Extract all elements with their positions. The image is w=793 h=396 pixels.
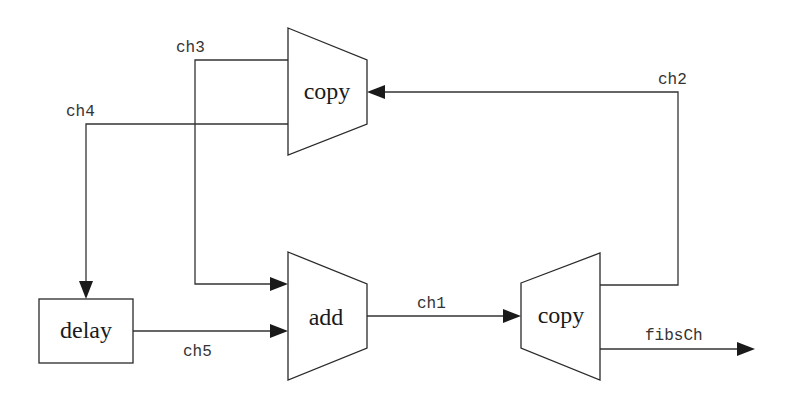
channel-ch3: ch3: [176, 39, 288, 291]
arrowhead-icon: [737, 342, 755, 356]
arrowhead-icon: [270, 324, 288, 338]
arrowhead-icon: [270, 277, 288, 291]
channel-label-ch1: ch1: [417, 295, 446, 313]
block-copy-top: copy: [288, 28, 367, 155]
arrowhead-icon: [367, 85, 385, 99]
channel-ch5: ch5: [133, 324, 288, 361]
channel-ch2: ch2: [367, 71, 687, 285]
channel-label-ch5: ch5: [183, 343, 212, 361]
arrowhead-icon: [503, 309, 521, 323]
arrowhead-icon: [79, 281, 93, 299]
channel-label-ch4: ch4: [66, 103, 95, 121]
channel-fibsCh: fibsCh: [600, 327, 755, 356]
channel-ch4: ch4: [66, 103, 288, 299]
channel-label-ch2: ch2: [658, 71, 687, 89]
block-label-copy-top: copy: [304, 78, 351, 104]
block-copy-right: copy: [521, 253, 600, 380]
block-label-add: add: [309, 304, 344, 330]
block-label-copy-right: copy: [538, 302, 585, 328]
channel-label-ch3: ch3: [176, 39, 205, 57]
block-label-delay: delay: [60, 317, 112, 343]
block-add: add: [288, 252, 367, 380]
fibonacci-dataflow-diagram: ch3 ch4 ch5 ch1 ch2 fibsCh copy add: [0, 0, 793, 396]
channel-label-fibsCh: fibsCh: [645, 327, 703, 345]
channel-ch1: ch1: [367, 295, 521, 323]
block-delay: delay: [39, 299, 133, 363]
